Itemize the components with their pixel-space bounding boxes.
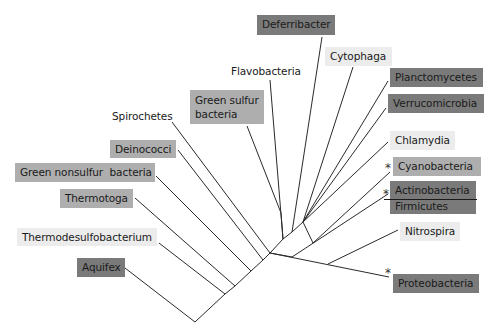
label-firmicutes: Firmicutes bbox=[390, 198, 476, 214]
branch-aquifex bbox=[125, 268, 195, 322]
branch-verrucomicrobia bbox=[303, 108, 386, 222]
backbone-segment bbox=[235, 271, 251, 286]
label-nitrospira: Nitrospira bbox=[400, 222, 460, 241]
branch-spirochetes bbox=[172, 122, 270, 253]
label-spirochetes: Spirochetes bbox=[107, 107, 175, 125]
label-green-sulfur-line2: bacteria bbox=[195, 107, 259, 121]
branch-proteobacteria bbox=[270, 253, 389, 277]
branch-actinobacteria bbox=[292, 194, 388, 257]
backbone-segment bbox=[225, 286, 235, 294]
branch-flavobacteria bbox=[270, 80, 283, 239]
branch-planctomycetes bbox=[303, 81, 388, 222]
label-cytophaga: Cytophaga bbox=[325, 47, 392, 66]
backbone-segment bbox=[263, 253, 270, 260]
label-cyanobacteria: Cyanobacteria bbox=[393, 157, 481, 176]
label-deferribacter: Deferribacter bbox=[257, 15, 335, 35]
backbone-segment bbox=[270, 239, 283, 253]
branch-green-sulfur bbox=[247, 126, 281, 213]
label-verrucomicrobia: Verrucomicrobia bbox=[388, 94, 484, 113]
actinobacteria-firmicutes-separator bbox=[384, 199, 477, 200]
label-thermotoga: Thermotoga bbox=[60, 189, 133, 208]
asterisk-actinobacteria: * bbox=[383, 189, 389, 199]
label-green-nonsulfur-bacteria: Green nonsulfur bacteria bbox=[15, 163, 155, 182]
backbone-segment bbox=[283, 232, 292, 239]
branch-nitrospira bbox=[328, 230, 398, 264]
internal-branch bbox=[303, 222, 313, 243]
label-green-sulfur-bacteria: Green sulfur bacteria bbox=[190, 90, 264, 124]
label-actinobacteria: Actinobacteria bbox=[390, 181, 476, 198]
label-aquifex: Aquifex bbox=[77, 258, 125, 277]
asterisk-cyanobacteria: * bbox=[385, 163, 391, 173]
label-flavobacteria: Flavobacteria bbox=[226, 62, 302, 80]
label-planctomycetes: Planctomycetes bbox=[390, 68, 483, 87]
label-thermodesulfobacterium: Thermodesulfobacterium bbox=[17, 228, 157, 246]
label-chlamydia: Chlamydia bbox=[390, 131, 455, 150]
branch-deinococci bbox=[178, 150, 263, 260]
backbone-segment bbox=[251, 260, 263, 271]
asterisk-proteobacteria: * bbox=[385, 268, 391, 278]
label-deinococci: Deinococci bbox=[110, 140, 176, 158]
label-green-sulfur-line1: Green sulfur bbox=[195, 93, 259, 107]
backbone-segment bbox=[195, 294, 225, 322]
branch-green-nonsulfur bbox=[156, 176, 251, 271]
label-proteobacteria: Proteobacteria bbox=[393, 274, 479, 293]
branch-cyanobacteria bbox=[313, 172, 390, 243]
